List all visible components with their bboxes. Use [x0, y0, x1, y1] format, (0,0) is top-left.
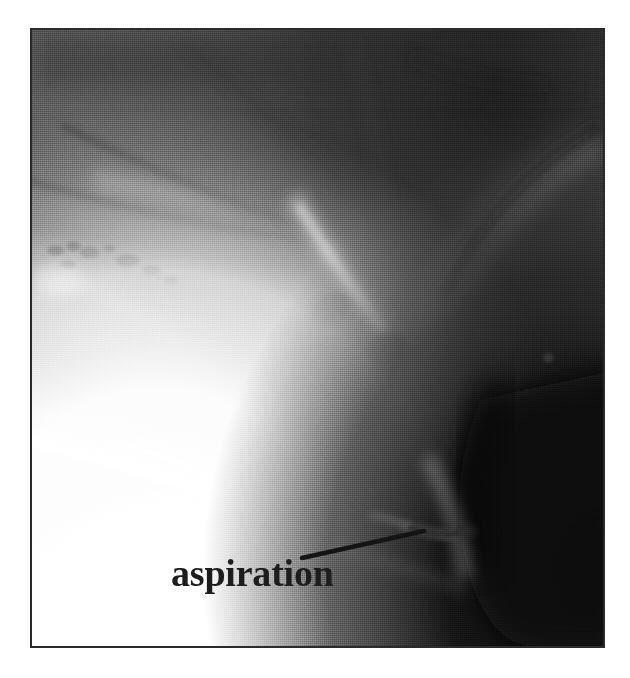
laryngeal-inlet-shadow: [453, 524, 477, 538]
dark-field-speck: [543, 353, 553, 363]
figure-root: aspiration: [0, 0, 630, 678]
aspiration-label: aspiration: [171, 553, 334, 593]
